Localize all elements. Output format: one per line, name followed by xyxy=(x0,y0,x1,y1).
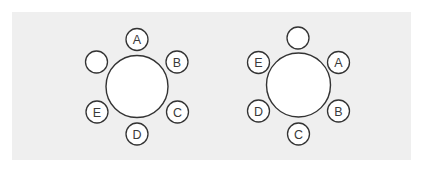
left-table-group: A B C D E xyxy=(86,29,189,146)
left-seat-a: A xyxy=(126,29,148,51)
seating-diagram: A B C D E A xyxy=(0,0,435,170)
seat-label: D xyxy=(254,105,263,119)
seat-label: B xyxy=(173,56,181,70)
left-seat-c: C xyxy=(167,101,189,123)
left-seat-b: B xyxy=(166,51,188,73)
left-round-table xyxy=(106,56,168,118)
right-table-group: A B C D E xyxy=(248,27,350,145)
left-seat-d: D xyxy=(126,123,148,145)
seat-label: E xyxy=(254,56,262,70)
right-seat-a: A xyxy=(328,52,350,74)
seat-label: C xyxy=(294,128,303,142)
seat-label: A xyxy=(133,33,142,47)
right-seat-b: B xyxy=(328,100,350,122)
right-seat-e: E xyxy=(248,52,270,74)
right-seat-d: D xyxy=(248,100,270,122)
left-seat-empty xyxy=(86,51,108,73)
empty-seat-circle xyxy=(86,51,108,73)
right-seat-c: C xyxy=(288,123,310,145)
seat-label: E xyxy=(93,106,101,120)
empty-seat-circle xyxy=(287,27,309,49)
right-seat-empty xyxy=(287,27,309,49)
seat-label: A xyxy=(334,56,343,70)
seat-label: C xyxy=(173,106,182,120)
seat-label: B xyxy=(334,105,342,119)
left-seat-e: E xyxy=(86,101,108,123)
right-round-table xyxy=(267,53,331,117)
seat-label: D xyxy=(132,128,141,142)
